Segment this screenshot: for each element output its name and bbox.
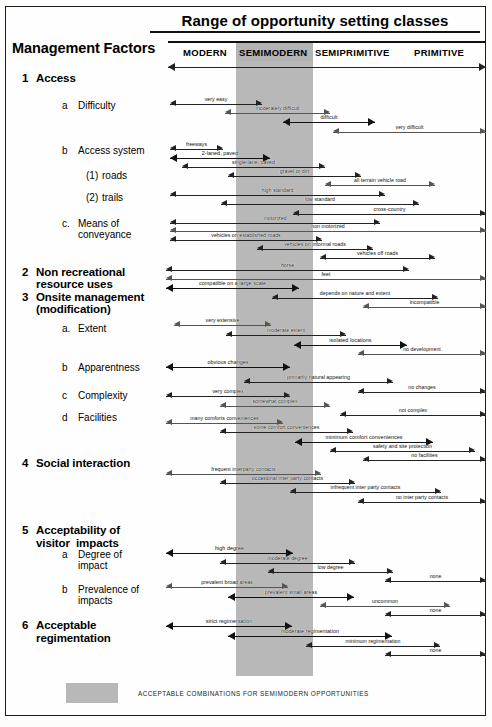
factor-label: bApparentness <box>62 362 140 373</box>
arrow-label: no facilities <box>363 452 486 458</box>
arrow-label: vehicles on established roads <box>170 232 322 238</box>
arrow-label: minimum regimentation <box>306 638 440 644</box>
factor-label: aDifficulty <box>62 100 116 111</box>
factor-number: b <box>62 362 78 373</box>
arrow-shaft <box>283 122 375 123</box>
arrow-label: infrequent inter party contacts <box>290 484 441 490</box>
arrow-shaft <box>363 460 486 461</box>
factor-text: Apparentness <box>78 362 140 373</box>
factor-text: Facilities <box>78 412 117 423</box>
factor-text: regimentation <box>36 632 111 644</box>
arrow-label: not complex <box>340 407 486 413</box>
opportunity-range-arrow: no facilities <box>363 455 486 466</box>
factor-label: impacts <box>78 595 112 606</box>
factor-number: (2) <box>86 192 102 203</box>
arrow-label: moderately difficult <box>225 105 330 111</box>
factor-label: impact <box>78 560 107 571</box>
factor-label: resource uses <box>36 278 113 290</box>
factor-label: aDegree of <box>62 549 122 560</box>
arrow-label: gravel or dirt <box>228 168 361 174</box>
factor-label: 1Access <box>22 72 76 84</box>
factor-label: bAccess system <box>62 145 145 156</box>
arrow-label: 2-laned, paved <box>170 150 270 156</box>
opportunity-range-arrow: low degree <box>268 567 393 578</box>
factor-text: Social interaction <box>36 457 130 469</box>
opportunity-range-arrow: none <box>385 650 486 661</box>
arrow-label: very extensive <box>174 317 271 323</box>
arrow-label: none <box>385 607 486 613</box>
arrow-shaft <box>290 492 441 493</box>
arrow-label: occasional inter party contacts <box>220 475 355 481</box>
factor-label: visitor impacts <box>36 537 119 549</box>
factor-label: 3Onsite management <box>22 291 144 303</box>
factor-label: 4Social interaction <box>22 457 130 469</box>
factor-text: Means of <box>78 218 119 229</box>
header-rule <box>168 41 486 43</box>
arrow-label: some comfort conveniences <box>220 424 353 430</box>
arrow-shaft <box>363 307 486 308</box>
factor-text: Difficulty <box>78 100 116 111</box>
arrow-shaft <box>221 204 419 205</box>
factor-number: b <box>62 584 78 595</box>
opportunity-range-arrow: not complex <box>340 410 486 421</box>
factor-text: trails <box>102 192 123 203</box>
factor-label: (modification) <box>36 303 111 315</box>
arrow-label: horse <box>166 262 409 268</box>
arrow-shaft <box>358 354 486 355</box>
arrow-label: freeways <box>170 141 223 147</box>
arrow-shaft <box>385 655 486 656</box>
arrow-shaft <box>358 392 486 393</box>
arrow-label: feet <box>166 271 486 277</box>
arrow-shaft <box>340 415 486 416</box>
arrow-shaft <box>320 258 435 259</box>
opportunity-range-arrow: obvious changes <box>166 362 290 373</box>
arrow-label: prevalent broad areas <box>166 579 288 585</box>
factor-number: b <box>62 145 78 156</box>
arrow-label: somewhat complex <box>220 398 330 404</box>
arrow-label: all terrain vehicle road <box>325 177 435 183</box>
factor-label: 2Non recreational <box>22 266 125 278</box>
factor-text: impacts <box>78 595 112 606</box>
arrow-label: incompatible <box>363 299 486 305</box>
factor-number: c <box>62 390 78 401</box>
arrow-label: none <box>385 573 486 579</box>
factor-number: 3 <box>22 291 36 303</box>
factor-label: regimentation <box>36 632 111 644</box>
arrow-label: none <box>385 647 486 653</box>
arrow-shaft <box>166 626 292 627</box>
factor-number: 1 <box>22 72 36 84</box>
factor-text: Acceptable <box>36 619 96 631</box>
arrow-shaft <box>166 367 290 368</box>
factor-text: Extent <box>78 323 106 334</box>
arrow-label: difficult <box>283 114 375 120</box>
arrow-label: moderate regimentation <box>228 628 392 634</box>
factor-label: 6Acceptable <box>22 619 96 631</box>
arrow-label: cross-country <box>293 206 486 212</box>
arrow-label: compatible on a large scale <box>166 280 299 286</box>
column-header-modern: MODERN <box>183 47 227 58</box>
arrow-label: motorized <box>170 215 380 221</box>
arrow-label: prevalent small areas <box>228 589 354 595</box>
opportunity-range-arrow: incompatible <box>363 302 486 313</box>
opportunity-range-arrow: very difficult <box>333 127 486 138</box>
arrow-label: low standard <box>221 196 419 202</box>
factor-label: (1)roads <box>86 170 127 181</box>
page-title: Range of opportunity setting classes <box>150 12 480 33</box>
opportunity-range-arrow: no development <box>358 349 486 360</box>
factor-text: resource uses <box>36 278 113 290</box>
arrow-label: vehicles on informal roads <box>257 241 373 247</box>
arrow-label: very difficult <box>333 124 486 130</box>
arrow-label: depends on nature and extent <box>272 290 438 296</box>
arrow-shaft <box>220 432 353 433</box>
factor-number: a <box>62 100 78 111</box>
arrow-label: single-lane, paved <box>182 159 325 165</box>
arrow-shaft <box>333 132 486 133</box>
column-header-primitive: PRIMITIVE <box>414 47 464 58</box>
factor-number: c. <box>62 218 78 229</box>
arrow-label: minimum comfort conveniences <box>295 434 433 440</box>
factor-label: (2)trails <box>86 192 123 203</box>
column-header-semiprimitive: SEMIPRIMITIVE <box>315 47 390 58</box>
factor-text: Degree of <box>78 549 122 560</box>
factor-number: a <box>62 549 78 560</box>
diagram-page: Range of opportunity setting classes Man… <box>0 0 492 727</box>
